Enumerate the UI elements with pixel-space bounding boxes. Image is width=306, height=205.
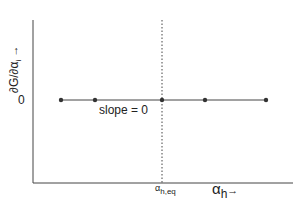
y-tick-zero: 0: [18, 93, 25, 107]
x-axis-label: αh→: [212, 180, 238, 201]
plot-area: [0, 0, 306, 205]
slope-annotation: slope = 0: [99, 103, 148, 117]
x-tick-eq: αh,eq: [155, 183, 176, 196]
y-axis-label: ∂G/∂αi →: [7, 3, 23, 93]
